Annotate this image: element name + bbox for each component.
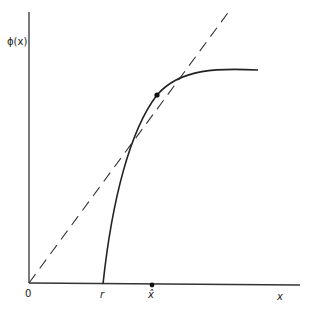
fixed-point-dot xyxy=(154,92,159,97)
y-axis-label: ϕ(x) xyxy=(7,36,27,47)
x-axis xyxy=(29,283,300,285)
r-label: r xyxy=(100,289,104,300)
diagram: ϕ(x) 0 r x̂ x xyxy=(0,0,310,317)
x-axis-label: x xyxy=(277,291,283,302)
diagram-canvas xyxy=(0,0,310,317)
origin-label: 0 xyxy=(25,288,31,299)
xhat-label: x̂ xyxy=(148,289,154,300)
xhat-dot xyxy=(150,283,155,288)
phi-curve xyxy=(103,69,258,284)
diagonal-dashed-line xyxy=(29,10,230,283)
